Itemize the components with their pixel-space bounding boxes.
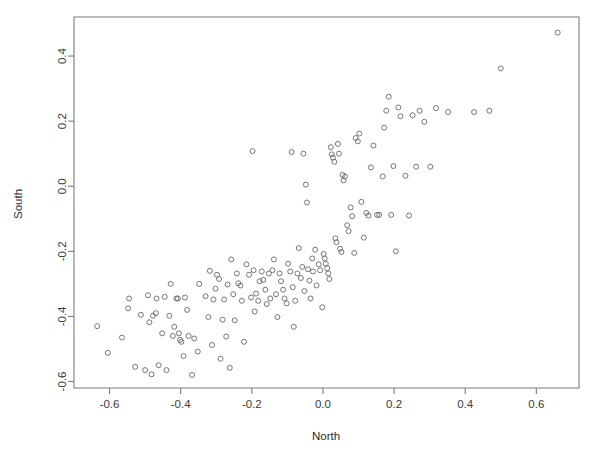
y-axis-title: South: [12, 189, 24, 219]
y-tick-label: 0.4: [56, 47, 68, 64]
y-tick-label: 0.2: [56, 113, 68, 129]
x-tick-label: -0.2: [242, 398, 262, 410]
x-tick-label: 0.4: [457, 398, 474, 410]
y-tick-label: -0.4: [56, 306, 68, 326]
y-tick-label: -0.2: [56, 241, 68, 261]
x-tick-label: 0.0: [315, 398, 331, 410]
x-axis-title: North: [312, 430, 340, 442]
x-tick-label: 0.2: [386, 398, 402, 410]
y-tick-label: 0.0: [56, 178, 68, 194]
x-tick-label: -0.6: [100, 398, 120, 410]
scatter-plot-figure: -0.6-0.4-0.20.00.20.40.6 -0.6-0.4-0.20.0…: [0, 0, 611, 457]
x-tick-label: 0.6: [528, 398, 544, 410]
plot-canvas: -0.6-0.4-0.20.00.20.40.6 -0.6-0.4-0.20.0…: [0, 0, 611, 457]
x-tick-label: -0.4: [171, 398, 191, 410]
y-tick-label: -0.6: [56, 372, 68, 392]
